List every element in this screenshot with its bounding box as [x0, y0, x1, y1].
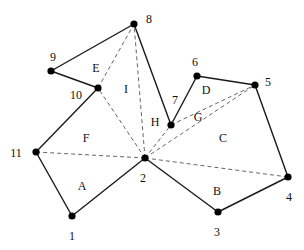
- region-label-B: B: [213, 184, 221, 198]
- node-4: [284, 173, 291, 180]
- node-5: [251, 81, 258, 88]
- dashed-edge-7-5: [171, 85, 255, 125]
- dashed-edge-2-7: [145, 125, 171, 158]
- node-8: [130, 20, 137, 27]
- node-9: [47, 67, 54, 74]
- node-3: [214, 208, 221, 215]
- region-label-D: D: [202, 83, 211, 97]
- region-label-H: H: [151, 115, 160, 129]
- solid-edge-2-3: [145, 158, 218, 212]
- region-labels: ABCDEFGHI: [78, 61, 227, 198]
- node-7: [167, 121, 174, 128]
- solid-edge-7-8: [134, 24, 171, 125]
- dashed-edge-2-8: [134, 24, 145, 158]
- nodes: [32, 20, 291, 219]
- region-label-E: E: [92, 61, 99, 75]
- region-label-F: F: [83, 131, 90, 145]
- dashed-edge-2-10: [98, 88, 145, 158]
- node-2: [141, 154, 148, 161]
- node-10: [94, 84, 101, 91]
- node-1: [68, 212, 75, 219]
- solid-edge-9-10: [51, 71, 98, 88]
- node-label-9: 9: [50, 50, 56, 64]
- node-label-3: 3: [214, 225, 220, 239]
- node-label-10: 10: [70, 88, 82, 102]
- node-label-8: 8: [146, 12, 152, 26]
- solid-edge-11-1: [36, 152, 72, 216]
- region-label-A: A: [78, 179, 87, 193]
- node-label-2: 2: [140, 171, 146, 185]
- node-label-11: 11: [10, 146, 22, 160]
- node-label-7: 7: [172, 93, 178, 107]
- region-label-I: I: [124, 82, 128, 96]
- node-label-5: 5: [265, 75, 271, 89]
- node-11: [32, 148, 39, 155]
- node-6: [193, 72, 200, 79]
- node-label-6: 6: [192, 55, 198, 69]
- dashed-edge-2-11: [36, 152, 145, 158]
- solid-edges: [36, 24, 288, 216]
- solid-edge-3-4: [218, 177, 288, 212]
- region-label-G: G: [194, 110, 203, 124]
- node-label-1: 1: [69, 229, 75, 243]
- node-label-4: 4: [286, 190, 292, 204]
- graph-diagram: 1234567891011 ABCDEFGHI: [0, 0, 304, 250]
- region-label-C: C: [219, 131, 227, 145]
- solid-edge-4-5: [255, 85, 288, 177]
